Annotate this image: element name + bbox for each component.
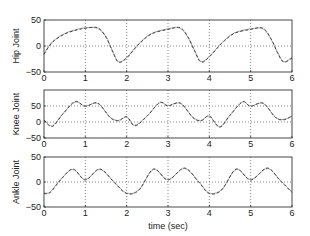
x-tick-label: 3 (165, 73, 170, 83)
x-tick-label: 1 (83, 208, 88, 218)
x-tick-label: 6 (289, 73, 294, 83)
y-tick-label: 0 (36, 117, 41, 127)
x-tick-label: 0 (41, 208, 46, 218)
x-tick-label: 6 (289, 139, 294, 149)
x-tick-label: 2 (124, 73, 129, 83)
x-tick-label: 4 (207, 139, 212, 149)
x-tick-label: 2 (124, 208, 129, 218)
x-tick-label: 4 (207, 208, 212, 218)
y-tick-label: 0 (36, 177, 41, 187)
y-axis-label: Ankle Joint (11, 159, 21, 204)
y-tick-label: 50 (31, 15, 41, 25)
ankle-joint-panel: 0123456−50050Ankle Joint (11, 152, 295, 218)
x-tick-label: 2 (124, 139, 129, 149)
x-tick-label: 1 (83, 73, 88, 83)
y-axis-label: Knee Joint (11, 92, 21, 135)
x-tick-label: 3 (165, 139, 170, 149)
x-tick-label: 4 (207, 73, 212, 83)
y-axis-label: Hip Joint (11, 28, 21, 64)
x-tick-label: 5 (248, 73, 253, 83)
x-tick-label: 3 (165, 208, 170, 218)
x-tick-label: 0 (41, 73, 46, 83)
y-tick-label: 0 (36, 41, 41, 51)
x-tick-label: 1 (83, 139, 88, 149)
x-tick-label: 5 (248, 139, 253, 149)
y-tick-label: −50 (26, 133, 41, 143)
x-axis-label: time (sec) (148, 221, 188, 231)
x-tick-label: 0 (41, 139, 46, 149)
knee-joint-panel: 0123456−50050Knee Joint (11, 90, 295, 149)
y-tick-label: 50 (31, 101, 41, 111)
y-tick-label: −50 (26, 202, 41, 212)
y-tick-label: −50 (26, 67, 41, 77)
x-tick-label: 5 (248, 208, 253, 218)
x-tick-label: 6 (289, 208, 294, 218)
joint-angle-chart: 0123456−50050Hip Joint 0123456−50050Knee… (0, 0, 310, 236)
y-tick-label: 50 (31, 152, 41, 162)
hip-joint-panel: 0123456−50050Hip Joint (11, 15, 295, 83)
